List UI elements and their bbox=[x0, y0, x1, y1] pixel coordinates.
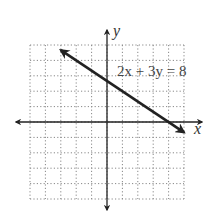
y-axis-label: y bbox=[111, 22, 121, 40]
coordinate-plane: x y 2x + 3y = 8 bbox=[0, 0, 210, 218]
x-axis-label: x bbox=[193, 120, 201, 137]
equation-label: 2x + 3y = 8 bbox=[117, 63, 186, 79]
axes bbox=[16, 30, 202, 210]
